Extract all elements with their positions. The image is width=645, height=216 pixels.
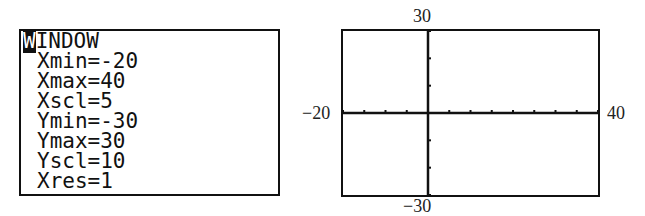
setting-xres: Xres=1: [23, 171, 138, 191]
ymin-label: −30: [403, 196, 431, 216]
coordinate-axes: [343, 31, 598, 195]
setting-xscl: Xscl=5: [23, 91, 138, 111]
setting-yscl: Yscl=10: [23, 151, 138, 171]
cursor-highlight: W: [23, 29, 36, 53]
ymax-label: 30: [413, 6, 431, 27]
xmax-label: 40: [607, 103, 625, 124]
setting-ymin: Ymin=-30: [23, 111, 138, 131]
setting-xmax: Xmax=40: [23, 71, 138, 91]
window-settings-list: WINDOW Xmin=-20 Xmax=40 Xscl=5 Ymin=-30 …: [23, 31, 138, 191]
calculator-window-screen: WINDOW Xmin=-20 Xmax=40 Xscl=5 Ymin=-30 …: [19, 29, 280, 196]
graph-viewport: [341, 29, 600, 197]
setting-ymax: Ymax=30: [23, 131, 138, 151]
setting-xmin: Xmin=-20: [23, 51, 138, 71]
xmin-label: −20: [302, 103, 330, 124]
window-title: WINDOW: [23, 31, 138, 51]
